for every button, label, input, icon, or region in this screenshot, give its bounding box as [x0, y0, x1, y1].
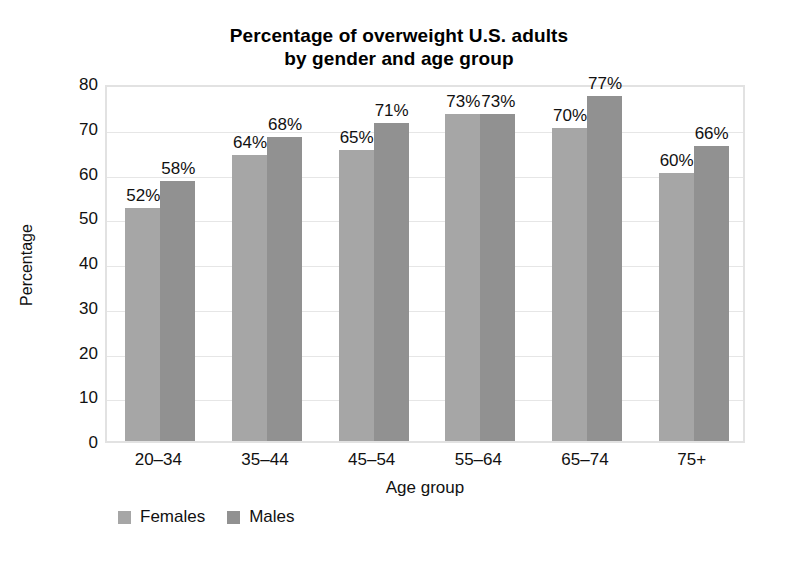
y-axis-tick-label: 50: [52, 210, 98, 227]
y-axis-title: Percentage: [18, 175, 40, 355]
y-axis-tick-label: 60: [52, 166, 98, 183]
bar-females[interactable]: [659, 173, 694, 442]
y-axis-tick-label: 80: [52, 76, 98, 93]
y-axis-tick-label: 10: [52, 389, 98, 406]
chart-legend: FemalesMales: [118, 505, 317, 529]
legend-swatch-icon: [227, 511, 240, 524]
x-axis-tick-labels: 20–3435–4445–5455–6465–7475+: [105, 450, 745, 474]
bar-value-label: 58%: [150, 160, 206, 177]
bar-females[interactable]: [445, 114, 480, 441]
x-axis-tick-label: 75+: [642, 450, 742, 470]
y-axis-tick-label: 70: [52, 121, 98, 138]
bar-chart: Percentage of overweight U.S. adults by …: [0, 0, 798, 564]
y-axis-tick-label: 20: [52, 345, 98, 362]
legend-item-females[interactable]: Females: [118, 508, 205, 526]
bar-value-label: 66%: [684, 125, 740, 142]
legend-label: Males: [249, 508, 294, 526]
x-axis-title: Age group: [105, 478, 745, 498]
bar-group: 64%68%: [232, 87, 302, 441]
bar-females[interactable]: [125, 208, 160, 441]
x-axis-tick-label: 45–54: [322, 450, 422, 470]
legend-item-males[interactable]: Males: [227, 508, 294, 526]
x-axis-tick-label: 65–74: [535, 450, 635, 470]
y-axis-tick-label: 40: [52, 255, 98, 272]
bar-males[interactable]: [160, 181, 195, 441]
bar-females[interactable]: [339, 150, 374, 441]
x-axis-tick-label: 20–34: [108, 450, 208, 470]
bars-layer: 52%58%64%68%65%71%73%73%70%77%60%66%: [107, 87, 743, 441]
bar-group: 70%77%: [552, 87, 622, 441]
bar-males[interactable]: [374, 123, 409, 441]
bar-females[interactable]: [552, 128, 587, 441]
y-axis-tick-labels: 80706050403020100: [48, 0, 98, 564]
chart-title-line-2: by gender and age group: [0, 47, 798, 70]
bar-males[interactable]: [267, 137, 302, 441]
chart-title: Percentage of overweight U.S. adults by …: [0, 24, 798, 70]
bar-group: 73%73%: [445, 87, 515, 441]
chart-title-line-1: Percentage of overweight U.S. adults: [0, 24, 798, 47]
bar-value-label: 73%: [470, 93, 526, 110]
bar-group: 65%71%: [339, 87, 409, 441]
y-axis-tick-label: 0: [52, 434, 98, 451]
y-axis-tick-label: 30: [52, 300, 98, 317]
plot-area: 52%58%64%68%65%71%73%73%70%77%60%66%: [105, 85, 745, 443]
legend-swatch-icon: [118, 511, 131, 524]
x-axis-tick-label: 55–64: [428, 450, 528, 470]
bar-group: 52%58%: [125, 87, 195, 441]
bar-males[interactable]: [480, 114, 515, 441]
legend-label: Females: [140, 508, 205, 526]
bar-group: 60%66%: [659, 87, 729, 441]
bar-value-label: 77%: [577, 75, 633, 92]
x-axis-tick-label: 35–44: [215, 450, 315, 470]
bar-males[interactable]: [587, 96, 622, 441]
bar-males[interactable]: [694, 146, 729, 441]
bar-value-label: 68%: [257, 116, 313, 133]
bar-value-label: 71%: [364, 102, 420, 119]
bar-females[interactable]: [232, 155, 267, 441]
